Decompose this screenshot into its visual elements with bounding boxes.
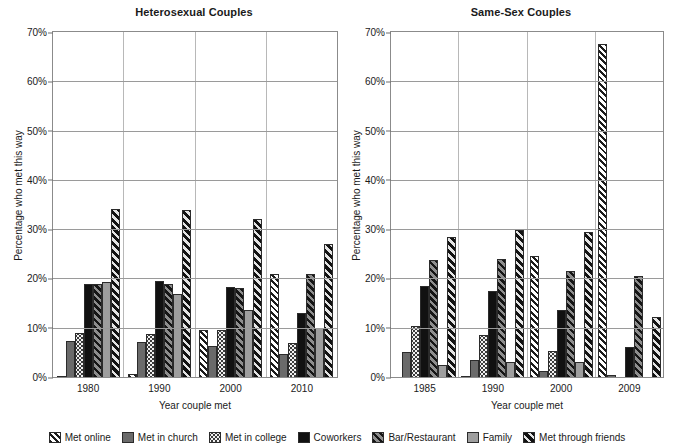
y-axis-tick: 0% (371, 372, 391, 383)
bar (497, 259, 506, 377)
legend-label: Met in college (225, 432, 287, 443)
bar (438, 365, 447, 377)
legend-item[interactable]: Bar/Restaurant (372, 432, 455, 443)
bar (634, 276, 643, 377)
bar (102, 282, 111, 377)
bar (155, 281, 164, 377)
bar (235, 288, 244, 377)
legend-item[interactable]: Met in church (122, 432, 198, 443)
gridline (53, 278, 337, 279)
bar (244, 310, 253, 377)
bar (411, 326, 420, 377)
bar (93, 284, 102, 377)
panel-title: Same-Sex Couples (348, 6, 674, 18)
bar (652, 317, 661, 377)
y-axis-label: Percentage who met this way (13, 106, 24, 286)
bar (66, 341, 75, 377)
x-axis-tick: 2009 (596, 383, 663, 394)
bar (84, 284, 93, 377)
y-axis-tick: 50% (27, 125, 53, 136)
legend-swatch-icon (372, 432, 384, 443)
bar-group: 1985 (391, 32, 459, 377)
bar (548, 351, 557, 377)
x-axis-label: Year couple met (391, 400, 663, 411)
chart-panel-same-sex: Same-Sex Couples Percentage who met this… (348, 0, 674, 412)
legend-label: Family (483, 432, 512, 443)
panel-title: Heterosexual Couples (0, 6, 348, 18)
bar-group: 2000 (528, 32, 596, 377)
legend-swatch-icon (122, 432, 134, 443)
legend-label: Coworkers (314, 432, 362, 443)
bar (324, 244, 333, 377)
bar (515, 230, 524, 377)
y-axis-tick: 10% (27, 322, 53, 333)
x-axis-label: Year couple met (53, 400, 337, 411)
x-axis-tick: 2000 (528, 383, 595, 394)
y-axis-tick: 60% (27, 76, 53, 87)
legend-swatch-icon (523, 432, 535, 443)
legend-label: Bar/Restaurant (388, 432, 455, 443)
gridline (391, 81, 663, 82)
bar (279, 354, 288, 377)
bar (607, 375, 616, 377)
y-axis-tick: 30% (27, 224, 53, 235)
legend-item[interactable]: Met online (49, 432, 111, 443)
x-axis-tick: 2000 (196, 383, 266, 394)
bar (208, 346, 217, 377)
y-axis-tick: 0% (33, 372, 53, 383)
bar (146, 334, 155, 377)
gridline (53, 131, 337, 132)
bars (598, 32, 661, 377)
bar (137, 342, 146, 377)
bar (270, 274, 279, 378)
bar (461, 376, 470, 377)
bar (75, 333, 84, 377)
bar (306, 274, 315, 378)
bar (575, 362, 584, 377)
bar (429, 260, 438, 377)
x-axis-tick: 1990 (124, 383, 194, 394)
gridline (391, 328, 663, 329)
bars (393, 32, 456, 377)
bar (420, 286, 429, 377)
y-axis-tick: 50% (365, 125, 391, 136)
chart-legend: Met onlineMet in churchMet in collegeCow… (0, 432, 674, 443)
x-axis-tick: 1980 (53, 383, 123, 394)
legend-swatch-icon (467, 432, 479, 443)
x-axis-tick: 2010 (267, 383, 337, 394)
bar (253, 219, 262, 377)
y-axis-tick: 20% (27, 273, 53, 284)
bar (199, 330, 208, 377)
bar (530, 256, 539, 377)
bar-group: 2000 (196, 32, 267, 377)
y-axis-tick: 40% (27, 174, 53, 185)
bars (270, 32, 333, 377)
bar (539, 371, 548, 377)
legend-swatch-icon (209, 432, 221, 443)
plot-area: 1980199020002010 Year couple met 0%10%20… (52, 31, 338, 378)
legend-item[interactable]: Met through friends (523, 432, 625, 443)
y-axis-tick: 60% (365, 76, 391, 87)
bar (506, 362, 515, 377)
bar (57, 376, 66, 377)
legend-item[interactable]: Met in college (209, 432, 287, 443)
bars (57, 32, 120, 377)
y-axis-label: Percentage who met this way (351, 106, 362, 286)
x-axis-tick: 1985 (391, 383, 458, 394)
gridline (391, 131, 663, 132)
y-axis-tick: 70% (365, 27, 391, 38)
bar-group: 1980 (53, 32, 124, 377)
bar (488, 291, 497, 377)
bar (164, 284, 173, 377)
bar (173, 294, 182, 377)
chart-panel-heterosexual: Heterosexual Couples Percentage who met … (0, 0, 348, 412)
gridline (53, 229, 337, 230)
gridline (53, 180, 337, 181)
bar (182, 210, 191, 377)
plot-area: 1985199020002009 Year couple met 0%10%20… (390, 31, 664, 378)
bar (217, 330, 226, 377)
bar (226, 287, 235, 377)
legend-item[interactable]: Coworkers (298, 432, 362, 443)
legend-item[interactable]: Family (467, 432, 512, 443)
bar (288, 343, 297, 378)
